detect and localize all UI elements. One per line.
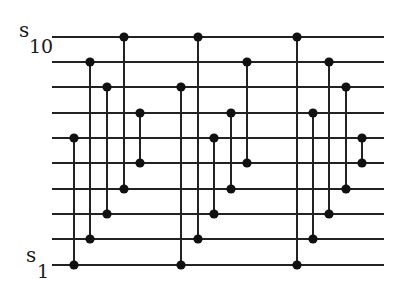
comparator-node-icon	[357, 158, 366, 167]
comparator-node-icon	[292, 260, 301, 269]
comparator	[69, 133, 78, 269]
comparator-node-icon	[85, 57, 94, 66]
comparator-node-icon	[226, 184, 235, 193]
comparator	[102, 82, 111, 218]
comparator-node-icon	[135, 108, 144, 117]
label-s1-symbol: s	[26, 243, 36, 267]
comparator-node-icon	[226, 108, 235, 117]
comparator-node-icon	[242, 158, 251, 167]
label-s10-sub: 10	[29, 35, 53, 57]
comparator-node-icon	[357, 133, 366, 142]
comparator-node-icon	[102, 82, 111, 91]
comparator-node-icon	[193, 234, 202, 243]
comparator-node-icon	[242, 57, 251, 66]
comparator-node-icon	[102, 209, 111, 218]
comparator-node-icon	[209, 209, 218, 218]
comparator-node-icon	[324, 57, 333, 66]
sorting-network-diagram	[0, 0, 406, 301]
comparator-node-icon	[119, 184, 128, 193]
comparator	[308, 108, 317, 243]
comparator	[357, 133, 366, 167]
comparator-node-icon	[324, 209, 333, 218]
wires	[52, 37, 384, 265]
label-s1: s	[26, 243, 36, 267]
comparator-node-icon	[85, 234, 94, 243]
comparator-node-icon	[176, 260, 185, 269]
comparator	[292, 32, 301, 269]
comparator-node-icon	[292, 32, 301, 41]
comparator-node-icon	[135, 158, 144, 167]
label-s10-symbol: s	[19, 18, 29, 42]
label-s10: s	[19, 18, 29, 42]
comparator-node-icon	[69, 260, 78, 269]
comparator-node-icon	[308, 234, 317, 243]
comparator	[85, 57, 94, 243]
comparator-node-icon	[176, 82, 185, 91]
comparator	[226, 108, 235, 193]
comparator-node-icon	[308, 108, 317, 117]
comparator-node-icon	[193, 32, 202, 41]
comparator-node-icon	[69, 133, 78, 142]
label-s1-sub: 1	[37, 260, 49, 282]
comparators	[69, 32, 366, 269]
comparator-node-icon	[341, 184, 350, 193]
comparator	[176, 82, 185, 269]
label-s10-subscript: 10	[29, 35, 53, 57]
label-s1-subscript: 1	[37, 260, 49, 282]
comparator-node-icon	[209, 133, 218, 142]
comparator	[209, 133, 218, 218]
comparator-node-icon	[341, 82, 350, 91]
comparator-node-icon	[119, 32, 128, 41]
